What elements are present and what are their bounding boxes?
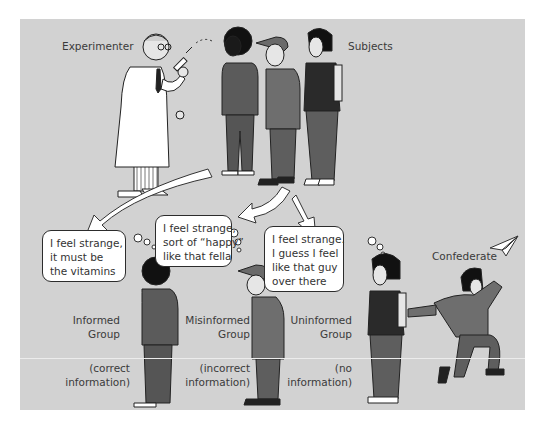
uninformed-subject-figure xyxy=(368,253,406,403)
group-name-line: Uninformed xyxy=(282,313,352,327)
subject-1-figure xyxy=(222,27,258,175)
group-info-line: information) xyxy=(48,375,130,389)
group-name-line: Misinformed xyxy=(168,313,250,327)
subjects-label: Subjects xyxy=(348,39,393,53)
group-info-line: information) xyxy=(282,375,352,389)
group-info-line: (incorrect xyxy=(168,361,250,375)
confederate-label: Confederate xyxy=(432,249,497,263)
section-divider xyxy=(20,358,525,359)
thought-line: I feel strange, xyxy=(50,236,118,250)
group-name-line: Group xyxy=(282,327,352,341)
thought-line: sort of “happy” xyxy=(163,235,224,249)
illustration xyxy=(20,19,525,410)
thought-line: over there xyxy=(272,274,336,288)
group-info-line: (no xyxy=(282,361,352,375)
thought-bubble-informed: I feel strange, it must be the vitamins xyxy=(42,230,126,282)
misinformed-group-info: (incorrect information) xyxy=(168,361,250,389)
thought-line: I feel strange. xyxy=(272,232,336,246)
group-name-line: Group xyxy=(48,327,120,341)
thought-line: I guess I feel xyxy=(272,246,336,260)
experimenter-label: Experimenter xyxy=(62,39,133,53)
uninformed-group-label: Uninformed Group xyxy=(282,313,352,341)
diagram-panel: Experimenter Subjects Confederate I feel… xyxy=(20,19,525,410)
thought-bubble-uninformed: I feel strange. I guess I feel like that… xyxy=(264,226,344,292)
thought-bubble-misinformed: I feel strange, sort of “happy” like tha… xyxy=(155,215,232,267)
informed-group-label: Informed Group xyxy=(48,313,120,341)
group-info-line: information) xyxy=(168,375,250,389)
subject-3-figure xyxy=(304,28,342,185)
thought-line: like that fella xyxy=(163,249,224,263)
thought-line: the vitamins xyxy=(50,264,118,278)
subject-2-figure xyxy=(256,37,300,185)
confederate-figure xyxy=(408,268,504,383)
uninformed-group-info: (no information) xyxy=(282,361,352,389)
group-info-line: (correct xyxy=(48,361,130,375)
misinformed-group-label: Misinformed Group xyxy=(168,313,250,341)
thought-line: like that guy xyxy=(272,260,336,274)
informed-group-info: (correct information) xyxy=(48,361,130,389)
group-name-line: Informed xyxy=(48,313,120,327)
arrow-icon-misinformed xyxy=(238,187,290,223)
thought-line: it must be xyxy=(50,250,118,264)
thought-line: I feel strange, xyxy=(163,221,224,235)
group-name-line: Group xyxy=(168,327,250,341)
